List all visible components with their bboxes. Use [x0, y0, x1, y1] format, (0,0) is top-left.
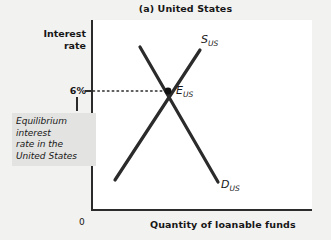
demand-curve-label: DUS — [221, 178, 240, 193]
figure-united-states-loanable-funds: (a) United States Interest rate Quantity… — [0, 0, 331, 240]
curves-overlay — [0, 0, 331, 240]
supply-curve-us — [115, 50, 200, 180]
demand-curve-us — [140, 47, 218, 182]
equilibrium-point-marker — [165, 88, 172, 95]
equilibrium-point-label: EUS — [176, 84, 193, 99]
supply-curve-label: SUS — [201, 33, 218, 48]
